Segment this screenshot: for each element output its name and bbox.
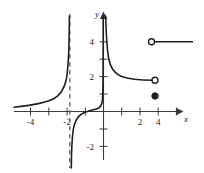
y-axis-label: y: [94, 9, 99, 19]
y-tick-label-2: 2: [90, 72, 95, 82]
y-tick-label--2: -2: [87, 142, 95, 152]
open-circle-marker-3-6-4: [149, 39, 155, 45]
open-circle-marker-3-2: [152, 77, 158, 83]
x-tick-label--4: -4: [27, 117, 35, 127]
curve-right-branch: [106, 16, 153, 80]
x-axis-arrowhead: [176, 108, 184, 115]
x-axis-label: x: [183, 114, 188, 124]
plot-canvas: -4 -2 2 4 -2 2 4 x y: [0, 0, 204, 173]
x-tick-label-4: 4: [156, 117, 161, 127]
curve-left-branch: [14, 16, 69, 107]
filled-dot-marker-3-1: [152, 93, 158, 99]
y-tick-label-4: 4: [90, 37, 95, 47]
x-tick-label-2: 2: [138, 117, 143, 127]
function-graph-figure: -4 -2 2 4 -2 2 4 x y: [0, 0, 204, 173]
